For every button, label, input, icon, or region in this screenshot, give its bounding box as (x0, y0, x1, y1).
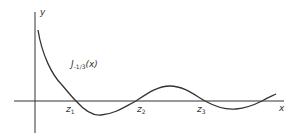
zero-label-1: z1 (66, 105, 75, 115)
zero-label-2: z2 (137, 105, 146, 115)
curve-label: J-1/3(x) (71, 60, 98, 70)
x-axis-label: x (279, 104, 284, 113)
bessel-diagram: y x J-1/3(x) z1 z2 z3 (0, 0, 292, 136)
y-axis-label: y (40, 8, 45, 17)
zero-label-3: z3 (197, 105, 206, 115)
bessel-curve (38, 30, 276, 115)
plot-svg (0, 0, 292, 136)
